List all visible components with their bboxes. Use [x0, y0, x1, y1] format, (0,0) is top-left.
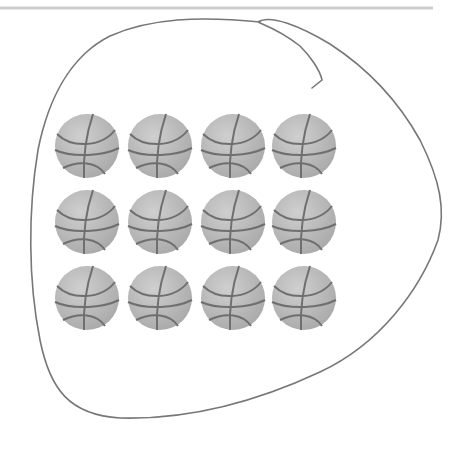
basketball	[55, 114, 119, 178]
basketball-array	[55, 114, 336, 330]
drawing-canvas	[0, 0, 451, 462]
basketball	[55, 266, 119, 330]
basketball	[128, 266, 192, 330]
basketball	[55, 190, 119, 254]
basketball	[201, 266, 265, 330]
basketball	[128, 114, 192, 178]
basketball	[272, 266, 336, 330]
basketball	[201, 190, 265, 254]
basketball	[128, 190, 192, 254]
basketball	[272, 190, 336, 254]
basketball	[272, 114, 336, 178]
basketball	[201, 114, 265, 178]
